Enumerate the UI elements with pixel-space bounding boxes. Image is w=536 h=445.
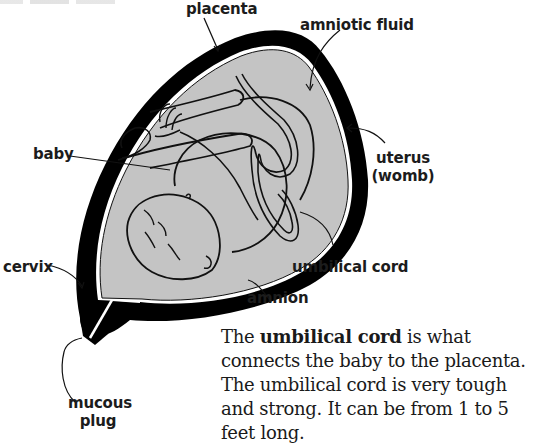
label-uterus-line1: uterus [368,149,438,167]
label-mucous-plug: mucous plug [68,394,128,430]
caption-bold-term: umbilical cord [260,326,402,347]
label-amnion: amnion [247,289,308,307]
label-uterus-line2: (womb) [368,167,438,185]
label-mucous-plug-line2: plug [68,412,128,430]
mucous-plug-leader [62,338,82,402]
placenta-leader [204,18,218,50]
label-placenta: placenta [186,0,257,18]
label-uterus: uterus (womb) [368,149,438,185]
caption-prefix: The [221,326,260,347]
label-umbilical-cord: umbilical cord [292,258,408,276]
label-mucous-plug-line1: mucous [68,394,128,412]
label-amniotic-fluid: amniotic fluid [300,16,414,34]
label-baby: baby [33,145,74,163]
caption-paragraph: The umbilical cord is what connects the … [221,325,533,445]
label-cervix: cervix [3,258,53,276]
